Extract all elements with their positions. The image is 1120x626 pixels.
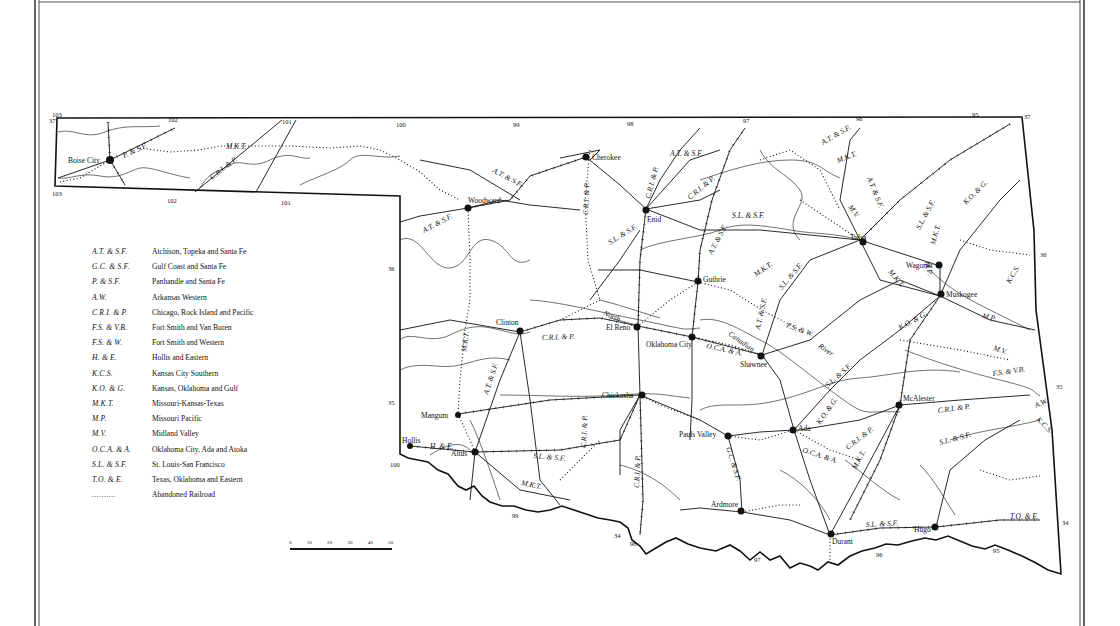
city-durant: Durant (832, 537, 854, 546)
legend-item: A.T. & S.F. Atchison, Topeka and Santa F… (92, 244, 302, 259)
scale-ticks: 0 10 20 30 40 50 (289, 540, 393, 545)
legend-item: M.V. Midland Valley (92, 426, 302, 441)
label-slsf-se: S.L. & S.F. (938, 430, 972, 447)
city-woodward: Woodward (468, 196, 501, 205)
city-hollis: Hollis (402, 436, 420, 445)
city-clinton: Clinton (496, 318, 519, 327)
label-mv-east: M.V. (991, 343, 1008, 356)
legend-item: K.C.S. Kansas City Southern (92, 366, 302, 381)
city-guthrie: Guthrie (703, 275, 727, 284)
label-mkt-south: M.K.T. (849, 449, 867, 472)
label-p-sf: P. & S.F. (120, 141, 149, 161)
city-mangum: Mangum (421, 411, 448, 420)
lon-101-top: 101 (282, 118, 292, 125)
legend-abbr: H. & E. (92, 353, 152, 362)
legend-item: G.C. & S.F. Gulf Coast and Santa Fe (92, 259, 302, 274)
lon-96-south: 96 (876, 551, 883, 558)
legend-abbr: K.O. & G. (92, 384, 152, 393)
legend-name: Abandoned Railroad (152, 490, 302, 499)
legend-item: M.K.T. Missouri-Kansas-Texas (92, 396, 302, 411)
label-atsf-ne: A.T. & S.F. (819, 123, 853, 148)
legend-abbr: T.O. & E. (92, 475, 152, 484)
label-mp-north: M.P. (923, 260, 935, 276)
lat-36-left: 36 (388, 265, 395, 272)
scale-tick: 30 (347, 540, 352, 545)
legend-abbr: P. & S.F. (92, 277, 152, 286)
legend-abbr: M.P. (92, 414, 152, 423)
legend-name: Atchison, Topeka and Santa Fe (152, 247, 302, 256)
legend-abbr: A.W. (92, 293, 152, 302)
city-tulsa: Tulsa (850, 233, 867, 242)
city-pauls-valley: Pauls Valley (679, 430, 716, 439)
legend-abbr: M.V. (92, 429, 152, 438)
label-cri-p-enid: C.R.I. & P. (643, 165, 660, 199)
city-el-reno: El Reno (606, 323, 631, 332)
legend-name: Fort Smith and Western (152, 338, 302, 347)
legend-name: Chicago, Rock Island and Pacific (152, 308, 302, 317)
legend-name: Kansas, Oklahoma and Gulf (152, 384, 302, 393)
label-mkt-panhandle: M.K.T. (225, 142, 247, 151)
label-kcs-north: K.C.S. (1003, 264, 1021, 286)
label-atsf-west: A.T. & S.F. (481, 362, 500, 397)
label-slsf-shawnee: S.L. & S.F. (823, 361, 853, 389)
legend-name: Hollis and Eastern (152, 353, 302, 362)
label-atsf-east: A.T. & S.F. (865, 174, 886, 209)
legend-abbr: G.C. & S.F. (92, 262, 152, 271)
lon-99-south: 99 (512, 512, 519, 519)
label-cri-p-clinton: C.R.I. & P. (542, 332, 575, 342)
city-shawnee: Shawnee (740, 360, 768, 369)
label-gcsf: G.C. & S.F. (724, 446, 743, 482)
scale-tick: 50 (388, 540, 393, 545)
legend-name: Missouri-Kansas-Texas (152, 399, 302, 408)
city-ardmore: Ardmore (711, 500, 739, 509)
lat-37-right: 37 (1024, 113, 1031, 120)
label-toe: T.O. & E. (1010, 512, 1039, 521)
lat-34-right: 34 (1062, 519, 1069, 526)
scale-tick: 10 (307, 540, 312, 545)
label-river: River (816, 341, 835, 358)
lon-96-top: 96 (856, 115, 863, 122)
city-hugo: Hugo (914, 525, 931, 534)
legend-item: F.S. & V.B. Fort Smith and Van Buren (92, 320, 302, 335)
legend-item: P. & S.F. Panhandle and Santa Fe (92, 274, 302, 289)
legend-name: Arkansas Western (152, 293, 302, 302)
city-enid: Enid (647, 215, 661, 224)
lon-101-bottom: 101 (281, 199, 291, 206)
legend-name: Oklahoma City, Ada and Atoka (152, 445, 302, 454)
legend-item: C.R.I. & P. Chicago, Rock Island and Pac… (92, 305, 302, 320)
city-oklahoma-city: Oklahoma City (646, 340, 692, 349)
legend-abbr: F.S. & W. (92, 338, 152, 347)
lon-100-top: 100 (396, 121, 406, 128)
label-oca-south: O.C.A. & A. (801, 445, 839, 465)
label-north-river: North (601, 308, 622, 323)
legend: A.T. & S.F. Atchison, Topeka and Santa F… (92, 244, 302, 502)
legend-item: T.O. & E. Texas, Oklahoma and Eastern (92, 472, 302, 487)
lon-102-bottom: 102 (167, 197, 177, 204)
label-slsf-enid: S.L. & S.F. (606, 222, 638, 247)
legend-abbr: A.T. & S.F. (92, 247, 152, 256)
label-slsf-north: S.L. & S.F. (732, 211, 764, 220)
lon-95-south: 95 (993, 547, 1000, 554)
label-cri-p-south-east: C.R.I. & P. (844, 424, 875, 451)
label-mp-east: M.P. (981, 311, 997, 323)
label-mkt-central: M.K.T. (751, 259, 774, 279)
lat-35-left: 35 (388, 399, 395, 406)
label-mkt-wagoner: M.K.T. (928, 223, 942, 246)
legend-abbr: O.C.A. & A. (92, 445, 152, 454)
lon-95-top: 95 (972, 111, 979, 118)
label-kog-ada: K.O. & G. (814, 395, 840, 427)
lon-97-top: 97 (743, 117, 750, 124)
legend-item: A.W. Arkansas Western (92, 290, 302, 305)
lon-103-bottom: 103 (52, 190, 62, 197)
label-cri-p-cherokee: C.R.I. & P. (581, 182, 591, 215)
legend-abbr: F.S. & V.B. (92, 323, 152, 332)
lon-98-south: 98 (630, 540, 637, 547)
city-mcalester: McAlester (903, 394, 935, 403)
legend-item: F.S. & W. Fort Smith and Western (92, 335, 302, 350)
legend-abbr: C.R.I. & P. (92, 308, 152, 317)
scale-tick: 0 (289, 540, 292, 545)
legend-item: M.P. Missouri Pacific (92, 411, 302, 426)
label-he: H. & E. (429, 442, 453, 451)
legend-abbr: M.K.T. (92, 399, 152, 408)
legend-item: K.O. & G. Kansas, Oklahoma and Gulf (92, 381, 302, 396)
